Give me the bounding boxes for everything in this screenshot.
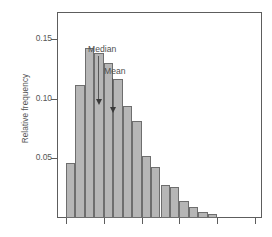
y-tick-label: 0.05: [24, 152, 52, 162]
histogram-figure: Relative frequency 0.050.100.15 MedianMe…: [0, 0, 272, 237]
x-tick-mark: [104, 218, 105, 224]
histogram-bar: [113, 79, 122, 218]
x-tick-mark: [179, 218, 180, 224]
histogram-bar: [75, 85, 84, 218]
histogram-bar: [151, 167, 160, 218]
plot-area: [57, 12, 262, 218]
y-tick-label: 0.10: [24, 93, 52, 103]
histogram-bar: [94, 53, 103, 218]
annotation-label-median: Median: [88, 44, 116, 54]
x-tick-mark: [255, 218, 256, 224]
y-tick-label-group: 0.050.100.15: [20, 0, 52, 237]
histogram-bar: [170, 187, 179, 218]
histogram-bar: [85, 48, 94, 218]
histogram-bar: [189, 207, 198, 218]
x-tick-mark: [217, 218, 218, 224]
annotation-arrow-median: [98, 56, 99, 100]
y-tick-label: 0.15: [24, 33, 52, 43]
annotation-label-mean: Mean: [104, 66, 126, 76]
histogram-bar: [132, 121, 141, 218]
histogram-bar: [208, 214, 217, 218]
histogram-bar: [123, 106, 132, 218]
x-tick-mark: [66, 218, 67, 224]
annotation-arrow-mean: [112, 78, 113, 108]
histogram-bar: [142, 156, 151, 218]
histogram-bar: [161, 185, 170, 218]
histogram-bar: [179, 201, 188, 218]
x-tick-mark: [142, 218, 143, 224]
histogram-bar: [198, 212, 207, 218]
histogram-bar: [66, 163, 75, 218]
